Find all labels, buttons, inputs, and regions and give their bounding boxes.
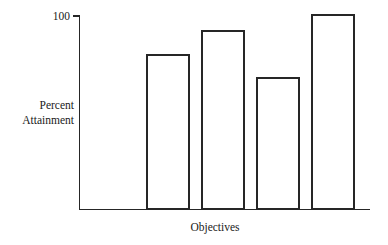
bar-1	[147, 55, 189, 209]
x-axis-group: Objectives	[79, 210, 370, 235]
y-axis-title-line-1: Percent	[40, 99, 75, 111]
bar-chart-figure: 100 Objectives Percent Attainment	[0, 0, 388, 245]
y-axis-tick-label-100: 100	[53, 10, 71, 22]
bar-5	[312, 15, 354, 209]
chart-canvas: 100 Objectives Percent Attainment	[0, 0, 388, 245]
bar-3	[257, 78, 299, 209]
bars-group	[147, 15, 354, 209]
bar-2	[202, 31, 244, 209]
x-axis-title: Objectives	[190, 221, 240, 234]
y-axis-title-line-2: Attainment	[22, 114, 75, 126]
y-axis-title-group: Percent Attainment	[22, 99, 75, 126]
